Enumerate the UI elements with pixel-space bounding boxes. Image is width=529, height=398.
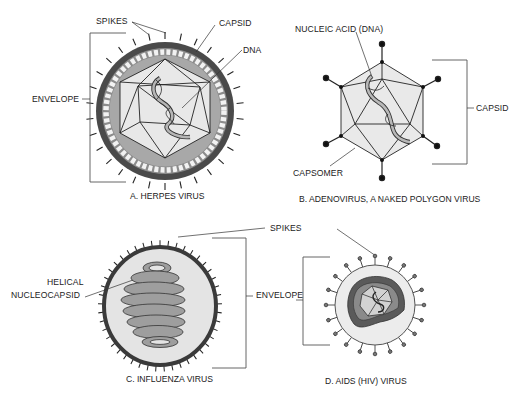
panel-influenza-virus: HELICAL NUCLEOCAPSID C. INFLUENZA VIRUS [11,238,253,384]
caption-influenza-virus: C. INFLUENZA VIRUS [126,374,213,384]
label-spikes-herpes: SPIKES [96,16,128,26]
panel-hiv-virus: ENVELOPE D. AIDS (HIV) VIRUS [256,254,426,386]
label-capsomer: CAPSOMER [293,168,343,178]
panel-herpes-virus: SPIKES CAPSID DNA ENVELOPE A. HERPES VIR… [32,16,262,201]
label-capsid-adenovirus: CAPSID [476,103,509,113]
label-capsid-herpes: CAPSID [219,18,252,28]
shared-spikes-label: SPIKES [178,223,376,256]
label-spikes-shared: SPIKES [270,223,302,233]
label-nucleic-acid: NUCLEIC ACID (DNA) [295,24,383,34]
caption-hiv-virus: D. AIDS (HIV) VIRUS [325,376,407,386]
label-envelope-herpes: ENVELOPE [32,94,79,104]
caption-herpes-virus: A. HERPES VIRUS [130,191,205,201]
label-dna-herpes: DNA [243,45,262,55]
label-envelope-hiv: ENVELOPE [256,290,303,300]
label-helical-line1: HELICAL [47,277,84,287]
panel-adenovirus: NUCLEIC ACID (DNA) CAPSID CAPSOMER B. AD… [293,24,509,204]
adenovirus-capsid [341,62,423,160]
label-helical-line2: NUCLEOCAPSID [11,290,80,300]
virus-diagram: SPIKES CAPSID DNA ENVELOPE A. HERPES VIR… [0,0,529,398]
caption-adenovirus: B. ADENOVIRUS, A NAKED POLYGON VIRUS [299,194,481,204]
